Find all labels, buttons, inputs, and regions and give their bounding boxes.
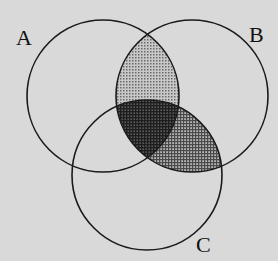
- region-a-b-c: [0, 0, 278, 261]
- set-label-a: A: [16, 27, 32, 49]
- set-label-b: B: [249, 24, 264, 46]
- set-label-c: C: [196, 234, 211, 256]
- venn-canvas: [0, 0, 278, 261]
- venn-diagram: A B C: [0, 0, 278, 261]
